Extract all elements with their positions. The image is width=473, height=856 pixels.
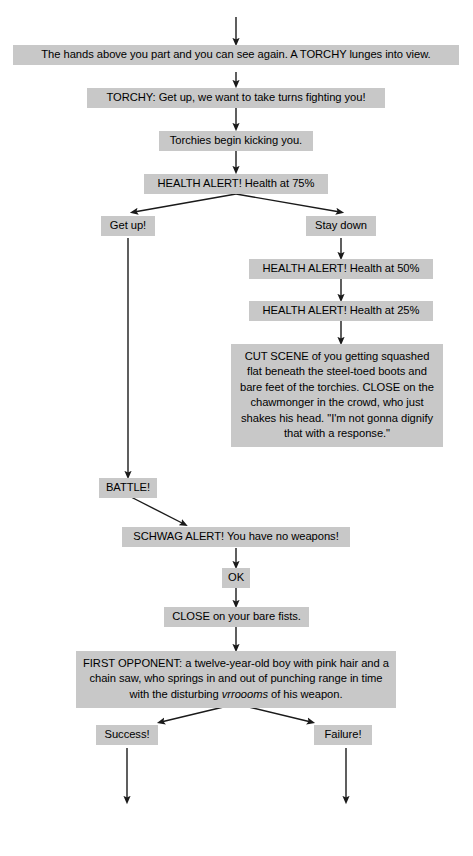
first-opponent-text-after: of his weapon. (268, 688, 343, 700)
cut-scene-node[interactable]: CUT SCENE of you getting squashed flat b… (231, 344, 443, 447)
battle-node[interactable]: BATTLE! (99, 478, 157, 498)
failure-choice-node[interactable]: Failure! (314, 725, 372, 745)
health-alert-50-node[interactable]: HEALTH ALERT! Health at 50% (249, 259, 433, 279)
ok-node[interactable]: OK (222, 568, 250, 588)
first-opponent-node[interactable]: FIRST OPPONENT: a twelve-year-old boy wi… (76, 651, 396, 708)
stay-down-choice-node[interactable]: Stay down (306, 216, 376, 236)
edge-battle-to-schwag (131, 497, 184, 524)
first-opponent-text-italic: vrroooms (222, 688, 268, 700)
health-alert-25-node[interactable]: HEALTH ALERT! Health at 25% (249, 301, 433, 321)
get-up-choice-node[interactable]: Get up! (101, 216, 155, 236)
schwag-alert-node[interactable]: SCHWAG ALERT! You have no weapons! (122, 527, 350, 547)
flowchart-canvas: The hands above you part and you can see… (0, 0, 473, 856)
success-choice-node[interactable]: Success! (96, 725, 158, 745)
torchy-speech-node[interactable]: TORCHY: Get up, we want to take turns fi… (87, 88, 385, 108)
close-bare-fists-node[interactable]: CLOSE on your bare fists. (164, 607, 309, 627)
edge-health75-to-staydown (236, 194, 340, 212)
health-alert-75-node[interactable]: HEALTH ALERT! Health at 75% (144, 174, 328, 194)
torchies-kicking-node[interactable]: Torchies begin kicking you. (159, 131, 313, 151)
hands-part-node[interactable]: The hands above you part and you can see… (13, 45, 459, 65)
edge-health75-to-getup (134, 194, 236, 212)
